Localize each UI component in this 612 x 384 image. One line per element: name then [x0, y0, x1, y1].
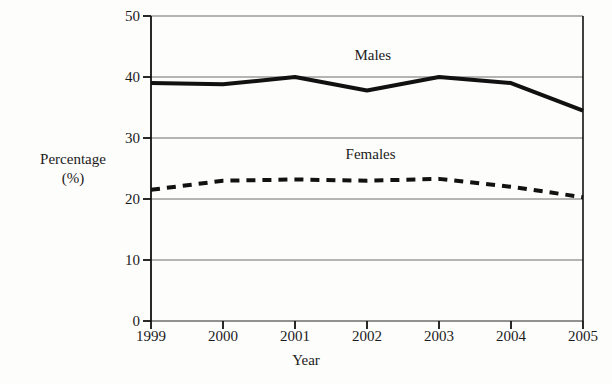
x-tick-label-2003: 2003	[409, 328, 469, 345]
series-label-males: Males	[354, 47, 391, 64]
series-label-females: Females	[346, 146, 396, 163]
y-tick-label-50: 50	[104, 8, 140, 25]
x-axis-title: Year	[0, 352, 612, 369]
y-tick-label-20: 20	[104, 191, 140, 208]
series-line-females	[151, 179, 583, 197]
y-tick-label-40: 40	[104, 69, 140, 86]
plot-area	[0, 0, 612, 384]
series-line-males	[151, 77, 583, 111]
x-tick-label-2000: 2000	[193, 328, 253, 345]
x-tick-label-2004: 2004	[481, 328, 541, 345]
y-tick-label-0: 0	[104, 313, 140, 330]
x-tick-label-1999: 1999	[121, 328, 181, 345]
x-tick-label-2001: 2001	[265, 328, 325, 345]
x-tick-label-2005: 2005	[553, 328, 612, 345]
y-tick-label-30: 30	[104, 130, 140, 147]
line-chart-figure: Percentage (%) 0 10 20 30 40 50 1999 200…	[0, 0, 612, 384]
x-tick-label-2002: 2002	[337, 328, 397, 345]
y-tick-label-10: 10	[104, 252, 140, 269]
